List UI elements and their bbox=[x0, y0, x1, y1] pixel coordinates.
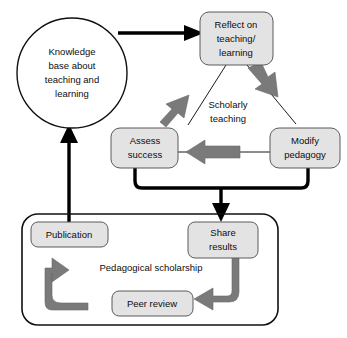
node-reflect-on-teaching-learning[interactable]: Reflect on teaching/ learning bbox=[200, 12, 273, 65]
reflect-line-1: Reflect on bbox=[215, 19, 258, 30]
reflect-line-2: teaching/ bbox=[217, 33, 256, 44]
node-publication[interactable]: Publication bbox=[31, 222, 108, 247]
node-knowledge-base[interactable]: Knowledge base about teaching and learni… bbox=[17, 18, 127, 128]
edge-publication-to-knowledge-base bbox=[60, 124, 78, 225]
scholarly-teaching-diagram: Knowledge base about teaching and learni… bbox=[0, 0, 347, 338]
bracket-path bbox=[135, 168, 308, 188]
knowledge-base-line-2: base about bbox=[48, 60, 95, 71]
label-pedagogical-scholarship: Pedagogical scholarship bbox=[100, 262, 203, 273]
arrowhead bbox=[212, 203, 230, 222]
gray-block-arrow-up-right bbox=[160, 95, 189, 127]
edge-assess-to-reflect bbox=[160, 95, 189, 127]
node-assess-success[interactable]: Assess success bbox=[111, 128, 178, 168]
node-share-results[interactable]: Share results bbox=[188, 222, 258, 258]
assess-line-2: success bbox=[128, 149, 163, 160]
peer-review-label: Peer review bbox=[127, 298, 177, 309]
gray-block-arrow-left bbox=[186, 140, 240, 164]
assess-line-1: Assess bbox=[130, 135, 161, 146]
gray-elbow-arrow-down-left bbox=[194, 250, 239, 310]
edge-share-results-to-peer-review bbox=[194, 250, 239, 310]
node-peer-review[interactable]: Peer review bbox=[112, 291, 193, 316]
scholarly-teaching-line-1: Scholarly bbox=[208, 99, 247, 110]
knowledge-base-line-3: teaching and bbox=[45, 74, 99, 85]
diagram-root: Knowledge base about teaching and learni… bbox=[0, 0, 347, 338]
edge-peer-review-to-publication bbox=[45, 258, 88, 310]
scholarly-teaching-line-2: teaching bbox=[210, 113, 246, 124]
knowledge-base-line-4: learning bbox=[55, 88, 89, 99]
modify-line-2: pedagogy bbox=[284, 149, 326, 160]
knowledge-base-line-1: Knowledge bbox=[48, 46, 95, 57]
edge-reflect-to-modify bbox=[248, 62, 278, 97]
label-scholarly-teaching: Scholarly teaching bbox=[208, 99, 247, 124]
modify-line-1: Modify bbox=[291, 135, 319, 146]
share-results-line-2: results bbox=[209, 241, 237, 252]
node-modify-pedagogy[interactable]: Modify pedagogy bbox=[270, 128, 340, 168]
share-results-line-1: Share bbox=[210, 227, 235, 238]
gray-block-arrow-down-right bbox=[248, 62, 278, 97]
publication-label: Publication bbox=[46, 229, 92, 240]
reflect-line-3: learning bbox=[219, 47, 253, 58]
gray-elbow-arrow-up bbox=[45, 258, 88, 310]
edge-modify-to-assess bbox=[186, 140, 240, 164]
edge-knowledge-base-to-reflect bbox=[118, 25, 204, 41]
